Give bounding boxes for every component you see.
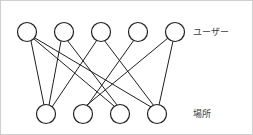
bottom-node-group bbox=[37, 105, 167, 124]
edge-u1-p1 bbox=[31, 41, 44, 105]
edge-u5-p2 bbox=[87, 38, 168, 105]
bipartite-graph-figure: ユーザー 場所 bbox=[0, 0, 253, 135]
user-node-4 bbox=[129, 23, 148, 42]
place-node-2 bbox=[74, 105, 93, 124]
user-node-5 bbox=[166, 23, 185, 42]
place-node-3 bbox=[111, 105, 130, 124]
place-node-1 bbox=[37, 105, 56, 124]
user-node-1 bbox=[18, 23, 37, 42]
graph-canvas: ユーザー 場所 bbox=[1, 1, 253, 135]
place-node-4 bbox=[148, 105, 167, 124]
bottom-row-label: 場所 bbox=[193, 108, 211, 119]
user-node-2 bbox=[55, 23, 74, 42]
edge-u5-p4 bbox=[159, 41, 173, 105]
top-row-label: ユーザー bbox=[193, 27, 229, 37]
edge-u3-p4 bbox=[104, 40, 154, 106]
user-node-3 bbox=[92, 23, 111, 42]
edge-group bbox=[31, 38, 173, 107]
edge-u1-p4 bbox=[35, 38, 151, 107]
top-node-group bbox=[18, 23, 185, 42]
